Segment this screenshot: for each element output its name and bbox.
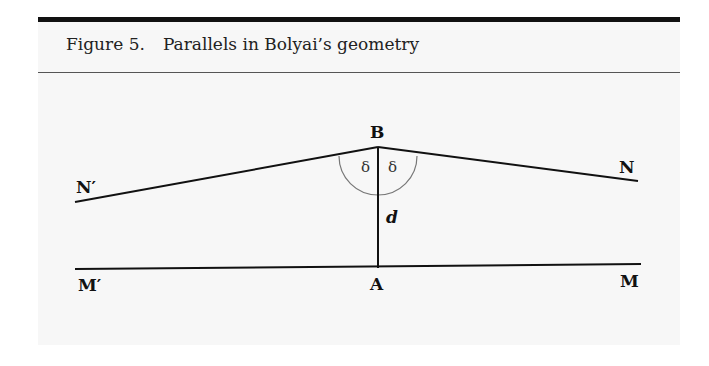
label-delta-left: δ	[361, 158, 370, 176]
label-N: N	[619, 157, 635, 177]
line-B-N	[378, 147, 638, 181]
label-M: M	[620, 271, 639, 291]
line-B-N-prime	[75, 147, 378, 202]
label-d: d	[386, 207, 398, 227]
label-B: B	[370, 122, 384, 142]
label-N-prime: N′	[76, 177, 97, 197]
label-A: A	[369, 274, 384, 294]
line-M-prime-M	[75, 264, 641, 269]
bolyai-parallels-diagram: B A N′ N M′ M d δ δ	[0, 0, 709, 366]
label-M-prime: M′	[78, 275, 102, 295]
label-delta-right: δ	[388, 158, 397, 176]
